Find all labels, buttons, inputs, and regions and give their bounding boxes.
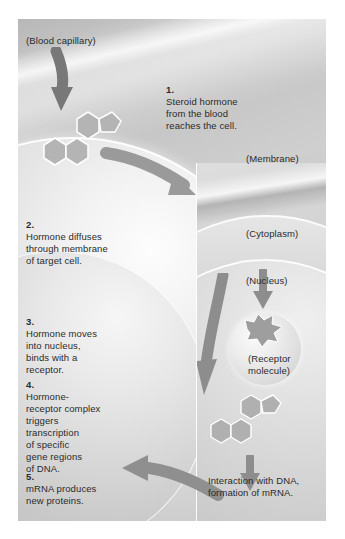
step-5: 5. mRNA produces new proteins. xyxy=(26,459,96,507)
step-1: 1. Steroid hormone from the blood reache… xyxy=(166,72,238,132)
label-blood-capillary: (Blood capillary) xyxy=(26,35,96,47)
receptor-molecule-shape xyxy=(241,309,287,349)
label-membrane: (Membrane) xyxy=(246,153,299,165)
arrow-hormone-into-membrane xyxy=(100,147,210,205)
diagram-figure: (Blood capillary) (Membrane) (Cytoplasm)… xyxy=(18,19,326,521)
arrow-into-nucleus xyxy=(196,273,239,398)
caption-dna-interaction: Interaction with DNA, formation of mRNA. xyxy=(208,475,299,499)
step-3-number: 3. xyxy=(26,316,34,327)
step-3: 3. Hormone moves into nucleus, binds wit… xyxy=(26,304,97,376)
step-2-number: 2. xyxy=(26,219,34,230)
label-cytoplasm: (Cytoplasm) xyxy=(246,228,298,240)
label-nucleus: (Nucleus) xyxy=(246,275,288,287)
step-1-number: 1. xyxy=(166,84,174,95)
step-2: 2. Hormone diffuses through membrane of … xyxy=(26,207,108,267)
step-4-number: 4. xyxy=(26,379,34,390)
step-1-text: Steroid hormone from the blood reaches t… xyxy=(166,96,238,131)
label-receptor-molecule: (Receptor molecule) xyxy=(248,353,291,377)
step-5-text: mRNA produces new proteins. xyxy=(26,483,96,506)
arrow-capillary-to-hormone xyxy=(40,47,86,117)
page-canvas: (Blood capillary) (Membrane) (Cytoplasm)… xyxy=(0,0,345,539)
step-5-number: 5. xyxy=(26,471,34,482)
step-2-text: Hormone diffuses through membrane of tar… xyxy=(26,231,108,266)
